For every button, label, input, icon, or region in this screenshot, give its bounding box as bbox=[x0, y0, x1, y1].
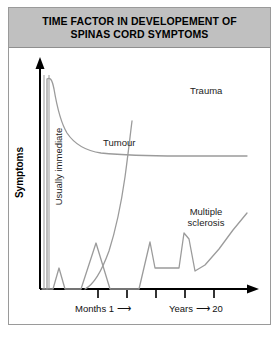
curve-label-multiple-sclerosis: Multiple sclerosis bbox=[177, 206, 235, 228]
y-axis bbox=[36, 57, 45, 289]
title-line-1: TIME FACTOR IN DEVELOPEMENT OF bbox=[42, 15, 237, 27]
title-banner: TIME FACTOR IN DEVELOPEMENT OF SPINAS CO… bbox=[9, 8, 270, 48]
chart-figure: TIME FACTOR IN DEVELOPEMENT OF SPINAS CO… bbox=[0, 0, 279, 338]
curve-label-tumour: Tumour bbox=[103, 137, 135, 148]
title-line-2: SPINAS CORD SYMPTOMS bbox=[42, 28, 237, 41]
x-axis-caption-months: Months 1 ⟶ bbox=[75, 303, 131, 314]
x-axis-caption-years: Years ⟶ 20 bbox=[169, 303, 223, 314]
annotation-usually-immediate: Usually immediate bbox=[53, 126, 64, 208]
y-axis-label: Symptoms bbox=[14, 137, 25, 209]
chart-canvas bbox=[9, 49, 270, 324]
curve-label-trauma: Trauma bbox=[190, 85, 222, 96]
ms-label-line-1: Multiple bbox=[177, 206, 235, 217]
page-title: TIME FACTOR IN DEVELOPEMENT OF SPINAS CO… bbox=[36, 15, 243, 41]
ms-label-line-2: sclerosis bbox=[177, 217, 235, 228]
x-axis-ticks bbox=[98, 289, 214, 298]
plot-area: Symptoms Usually immediate Trauma Tumour… bbox=[9, 49, 270, 324]
